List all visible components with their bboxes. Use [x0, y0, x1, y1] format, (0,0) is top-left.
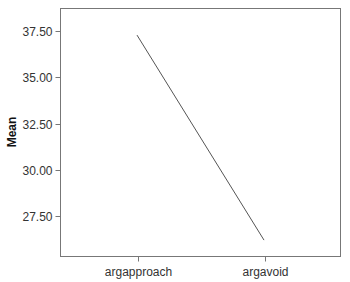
y-tick-label: 30.00 [22, 164, 52, 178]
y-tick-label: 35.00 [22, 71, 52, 85]
x-tick-label: argapproach [105, 265, 172, 279]
x-tick-label: argavoid [242, 265, 288, 279]
x-axis: argapproachargavoid [105, 257, 289, 279]
line-chart: 27.5030.0032.5035.0037.50 argapproacharg… [0, 0, 350, 282]
y-tick-label: 32.50 [22, 118, 52, 132]
y-tick-label: 27.50 [22, 210, 52, 224]
y-axis: 27.5030.0032.5035.0037.50 [22, 25, 60, 224]
y-axis-title: Mean [5, 117, 19, 148]
plot-frame [61, 9, 341, 257]
y-tick-label: 37.50 [22, 25, 52, 39]
